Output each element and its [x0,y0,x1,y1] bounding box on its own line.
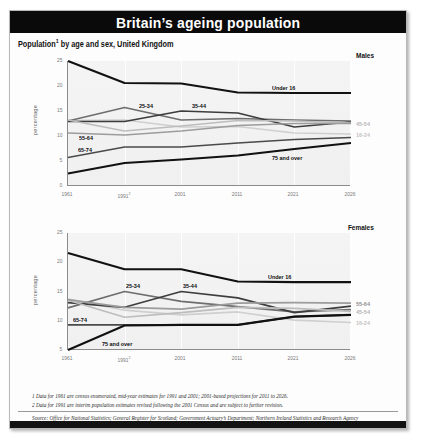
series-label-16-24: 16-24 [356,131,370,138]
panel-title-females: Females [348,223,374,232]
y-tick-label: 10 [57,317,62,323]
title-banner: Britain’s ageing population [10,11,406,33]
series-label-35-44: 35-44 [183,282,197,289]
plot-area-males [67,61,350,186]
footnote-1: 1 Data for 1961 are census enumerated, m… [32,392,374,401]
page-title: Britain’s ageing population [116,14,300,31]
series-line [68,108,351,122]
x-tick-label: 19912 [108,355,139,363]
series-canvas [68,61,351,186]
y-tick-label: 15 [57,107,62,113]
x-tick-label: 2011 [221,355,252,361]
y-tick-label: 0 [59,182,62,188]
y-axis-label-females: percentage [32,260,38,320]
series-label-75-and-over: 75 and over [272,154,302,161]
divider [18,411,398,412]
series-label-under-16: Under 16 [272,84,295,91]
series-label-55-64: 55-64 [79,134,93,141]
y-tick-label: 15 [57,288,62,294]
x-tick-label: 2001 [165,355,196,361]
series-label-45-54: 45-54 [356,120,370,127]
y-axis-label-males: percentage [32,90,38,150]
series-label-65-74: 65-74 [78,146,92,153]
series-label-65-74: 65-74 [73,316,87,323]
plot-area-females [67,233,350,350]
y-tick-label: 25 [57,57,62,63]
screenshot-root: Britain’s ageing population Population1 … [0,0,422,441]
gridline [351,233,352,349]
y-tick-label: 25 [57,229,62,235]
x-tick-label: 2011 [221,191,252,197]
chart-males: Males percentage 0510152025 196119912200… [10,49,406,217]
gridline [351,61,352,185]
series-label-45-54: 45-54 [356,308,370,315]
bottom-bar [10,421,406,428]
x-tick-label: 19912 [108,191,139,199]
subtitle-text: Population [18,39,56,49]
series-label-16-24: 16-24 [356,319,370,326]
y-tick-label: 20 [57,258,62,264]
chart-females: Females percentage 510152025 19611991220… [10,217,406,392]
y-tick-label: 10 [57,132,62,138]
series-label-55-64: 55-64 [356,300,370,307]
footnotes: 1 Data for 1961 are census enumerated, m… [32,392,374,409]
series-line [68,253,351,282]
x-tick-label: 2026 [335,355,366,361]
y-tick-label: 5 [59,157,62,163]
series-label-under-16: Under 16 [268,273,291,280]
x-tick-label: 2021 [278,191,309,197]
y-tick-label: 5 [59,346,62,352]
chart-subtitle: Population1 by age and sex, United Kingd… [18,38,173,49]
series-label-25-34: 25-34 [126,282,140,289]
series-line [68,61,351,93]
x-tick-label: 2001 [165,191,196,197]
x-tick-label: 1961 [52,355,83,361]
series-line [68,143,351,174]
series-label-35-44: 35-44 [192,102,206,109]
x-tick-label: 2021 [278,355,309,361]
y-tick-label: 20 [57,82,62,88]
figure-card: Britain’s ageing population Population1 … [9,10,407,429]
series-label-75-and-over: 75 and over [102,340,132,347]
series-label-25-34: 25-34 [139,102,153,109]
x-tick-label: 2026 [335,191,366,197]
series-canvas [68,233,351,350]
x-tick-label: 1961 [52,191,83,197]
panel-title-males: Males [356,51,374,60]
subtitle-rest: by age and sex, United Kingdom [59,39,174,49]
footnote-2: 2 Data for 1991 are interim population e… [32,401,374,410]
